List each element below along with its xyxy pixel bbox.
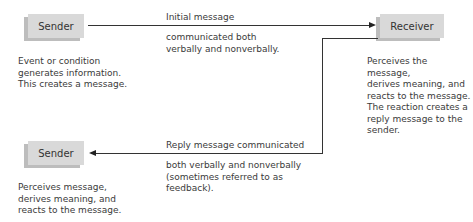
receiver-box: Receiver (380, 14, 444, 38)
sender-label-bottom: Sender (38, 148, 73, 159)
sender-description-bottom: Perceives message, derives meaning, and … (18, 182, 121, 217)
reply-message-line (96, 153, 323, 154)
reply-connector-horizontal (322, 38, 378, 39)
receiver-description: Perceives the message, derives meaning, … (367, 56, 473, 137)
receiver-label: Receiver (390, 21, 433, 32)
sender-label-top: Sender (38, 21, 73, 32)
reply-message-detail: both verbally and nonverbally (sometimes… (166, 160, 301, 195)
initial-message-line (88, 25, 370, 26)
initial-message-detail: communicated both verbally and nonverbal… (166, 32, 279, 55)
reply-connector-vertical (322, 38, 323, 154)
initial-message-title: Initial message (166, 12, 234, 24)
sender-description-top: Event or condition generates information… (18, 56, 127, 91)
reply-message-arrowhead-icon (89, 150, 96, 156)
reply-message-title: Reply message communicated (166, 140, 304, 152)
sender-box-top: Sender (28, 14, 84, 38)
initial-message-arrowhead-icon (369, 22, 376, 28)
sender-box-bottom: Sender (28, 141, 84, 165)
